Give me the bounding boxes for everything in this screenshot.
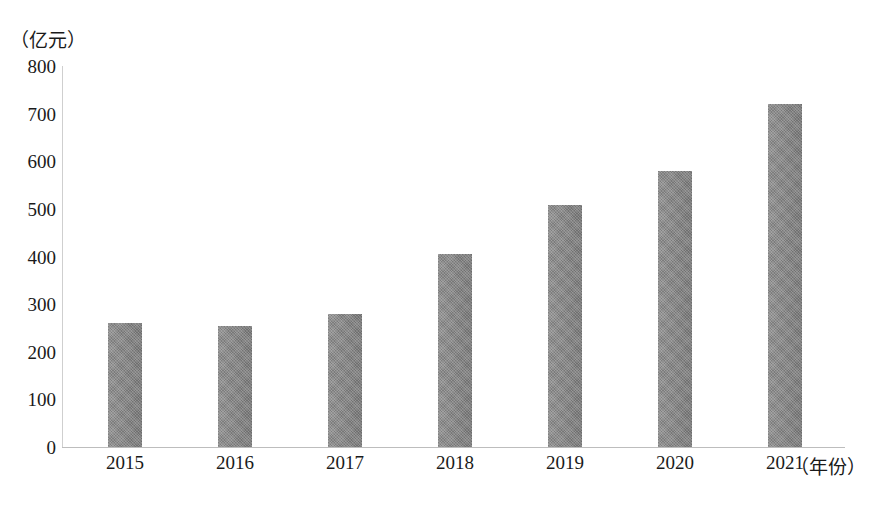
bar-chart: （亿元） 800 700 600 500 400 300 200 100 0 2… (0, 0, 879, 515)
y-tick-label-100: 100 (4, 390, 56, 409)
y-axis-tick-labels: 800 700 600 500 400 300 200 100 0 (0, 66, 56, 447)
bar-2017 (328, 314, 362, 447)
x-axis-tick-labels: 2015 2016 2017 2018 2019 2020 2021 (62, 452, 845, 492)
x-axis-title: （年份） (790, 452, 866, 479)
y-tick-label-0: 0 (4, 438, 56, 457)
y-tick-label-600: 600 (4, 152, 56, 171)
y-axis-unit-label: （亿元） (10, 25, 86, 52)
bar-2018 (438, 254, 472, 447)
x-axis-line (62, 447, 845, 448)
x-tick-label-2015: 2015 (80, 452, 170, 474)
x-tick-label-2016: 2016 (190, 452, 280, 474)
y-tick-label-800: 800 (4, 57, 56, 76)
y-tick-label-500: 500 (4, 200, 56, 219)
bar-2016 (218, 326, 252, 447)
y-tick-label-700: 700 (4, 105, 56, 124)
y-tick-label-200: 200 (4, 343, 56, 362)
x-tick-label-2018: 2018 (410, 452, 500, 474)
y-tick-label-400: 400 (4, 248, 56, 267)
x-tick-label-2017: 2017 (300, 452, 390, 474)
bar-2020 (658, 171, 692, 447)
x-tick-label-2020: 2020 (630, 452, 720, 474)
x-tick-label-2019: 2019 (520, 452, 610, 474)
bar-2015 (108, 323, 142, 447)
bar-2019 (548, 205, 582, 447)
bars-layer (62, 66, 845, 447)
bar-2021 (768, 104, 802, 447)
y-tick-label-300: 300 (4, 295, 56, 314)
